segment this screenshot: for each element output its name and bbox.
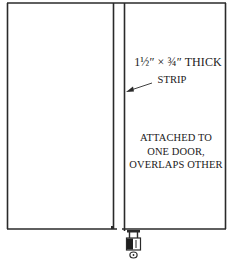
arrow-icon (126, 83, 152, 92)
attached-line-3: OVERLAPS OTHER (124, 158, 228, 172)
strip-dimension-label: 1½″ × ¾″ THICK (126, 56, 230, 70)
padlock-icon (127, 230, 141, 258)
door-frame (7, 3, 226, 231)
attached-line-1: ATTACHED TO (124, 131, 228, 145)
corner-mark (111, 226, 114, 229)
strip-label: STRIP (150, 73, 194, 87)
attached-line-2: ONE DOOR, (124, 145, 228, 159)
attached-note: ATTACHED TO ONE DOOR, OVERLAPS OTHER (124, 131, 228, 172)
